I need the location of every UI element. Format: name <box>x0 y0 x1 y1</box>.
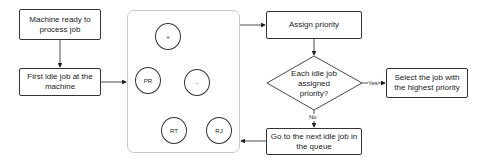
step-next-idle-job: Go to the next idle job in the queue <box>266 128 362 155</box>
step-select-job: Select the job with the highest priority <box>386 68 468 98</box>
step-next-idle-job-label: Go to the next idle job in the queue <box>270 132 358 152</box>
edge-label-no: No <box>309 114 317 121</box>
step-assign-priority-label: Assign priority <box>289 20 339 30</box>
tree-node-rj-label: RJ <box>215 128 222 134</box>
tree-node-pr: PR <box>135 67 161 94</box>
tree-node-rt: RT <box>161 117 187 144</box>
step-select-job-label: Select the job with the highest priority <box>390 73 464 93</box>
step-assign-priority: Assign priority <box>266 11 362 39</box>
tree-node-minus: - <box>184 69 210 96</box>
step-machine-ready: Machine ready to process job <box>19 9 101 40</box>
tree-node-plus-label: + <box>166 34 170 40</box>
decision-label: Each idle job assigned priority? <box>289 69 339 99</box>
tree-node-rt-label: RT <box>170 128 178 134</box>
tree-node-pr-label: PR <box>144 78 152 84</box>
tree-node-plus: + <box>155 23 181 50</box>
tree-node-rj: RJ <box>206 117 232 144</box>
step-first-idle-job: First idle job at the machine <box>19 68 101 96</box>
edge-label-yes: Yes <box>368 80 378 87</box>
step-first-idle-job-label: First idle job at the machine <box>23 72 97 92</box>
tree-node-minus-label: - <box>196 80 198 86</box>
step-machine-ready-label: Machine ready to process job <box>23 15 97 35</box>
